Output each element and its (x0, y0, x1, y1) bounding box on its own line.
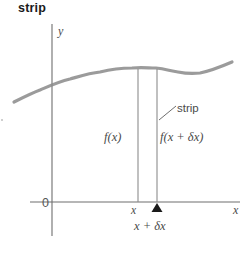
label-f-of-x: f(x) (104, 130, 121, 145)
x-tick-label-x: x (131, 204, 136, 216)
origin-label: 0 (42, 196, 49, 210)
x-tick-label-x-plus-delta-x: x + δx (134, 219, 166, 234)
figure-strip-diagram: strip y x 0 f(x) f(x + δx) strip x x + δ… (0, 0, 252, 255)
label-f-of-x-plus-delta-x: f(x + δx) (160, 130, 203, 145)
strip-callout-label: strip (177, 102, 199, 114)
scan-artifact-speck (1, 119, 3, 121)
triangle-marker-icon (152, 203, 163, 212)
function-curve (14, 62, 232, 102)
plot-canvas (0, 0, 252, 255)
y-axis-label: y (58, 24, 63, 39)
strip-callout-leader-line (159, 106, 176, 120)
x-axis-label: x (233, 203, 238, 218)
